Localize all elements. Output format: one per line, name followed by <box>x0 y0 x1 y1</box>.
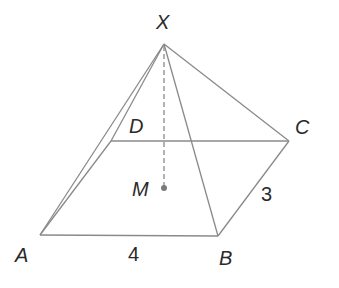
label-ab-length: 4 <box>128 244 139 264</box>
label-c: C <box>295 117 309 137</box>
label-d: D <box>129 116 143 136</box>
edge-da <box>40 141 111 235</box>
edge-xc <box>164 44 289 141</box>
label-x: X <box>156 12 169 32</box>
label-a: A <box>15 245 28 265</box>
point-m <box>161 185 167 191</box>
edge-ab <box>40 235 218 236</box>
pyramid-drawing <box>0 0 339 288</box>
edge-bc <box>218 141 289 236</box>
edge-xb <box>164 44 218 236</box>
label-b: B <box>219 248 232 268</box>
label-bc-length: 3 <box>261 184 272 204</box>
edge-xa <box>40 44 164 235</box>
pyramid-diagram: X D C M 3 A 4 B <box>0 0 339 288</box>
label-m: M <box>132 179 149 199</box>
